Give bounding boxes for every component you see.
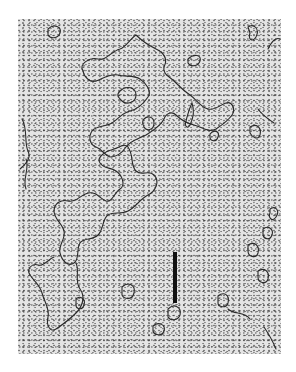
dna-strand-left-lower <box>29 257 83 330</box>
dna-loop-10 <box>248 243 258 256</box>
dna-strand-main-lower <box>54 145 157 264</box>
dna-fragment-6 <box>264 327 276 349</box>
dna-loop-7 <box>250 125 260 138</box>
dna-loop-13 <box>168 306 180 320</box>
scale-bar <box>173 252 177 303</box>
dna-strands <box>18 19 281 354</box>
dna-fragment-2 <box>258 109 274 123</box>
dna-loop-8 <box>210 131 218 141</box>
dna-loop-2 <box>143 117 155 130</box>
micrograph-image <box>18 19 281 354</box>
dna-loop-12 <box>122 284 134 298</box>
dna-loop-9 <box>269 208 277 220</box>
dna-fragment-3 <box>268 38 280 49</box>
dna-loop-16 <box>263 227 272 238</box>
dna-loop-15 <box>218 294 228 307</box>
dna-loop-4 <box>188 55 200 65</box>
dna-fragment-5 <box>228 309 250 319</box>
dna-loop-1 <box>118 88 136 103</box>
dna-loop-6 <box>248 26 257 40</box>
dna-fragment-1 <box>20 119 29 169</box>
dna-loop-14 <box>153 324 164 335</box>
dna-loop-5 <box>48 26 60 38</box>
dna-loop-11 <box>258 269 268 282</box>
